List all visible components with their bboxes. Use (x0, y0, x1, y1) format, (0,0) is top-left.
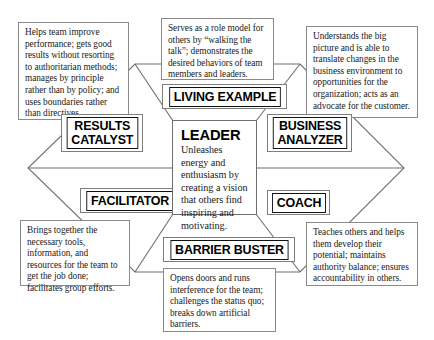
role-label-results-catalyst-text: RESULTSCATALYST (66, 117, 137, 150)
callout-living-example: Serves as a role model for others by “wa… (161, 18, 274, 80)
role-label-facilitator[interactable]: FACILITATOR (80, 188, 179, 213)
callout-coach: Teaches others and helps them develop th… (306, 222, 418, 286)
role-label-barrier-buster-text: BARRIER BUSTER (170, 240, 288, 260)
role-label-business-analyzer-line2: ANALYZER (277, 132, 342, 147)
center-leader-description: Unleashes energy and enthusiasm by creat… (181, 143, 250, 232)
diagram-canvas: Helps team improve performance; gets goo… (0, 0, 434, 340)
role-label-business-analyzer[interactable]: BUSINESSANALYZER (267, 114, 352, 152)
role-label-facilitator-text: FACILITATOR (86, 191, 174, 211)
callout-business-analyzer: Understands the big picture and is able … (306, 26, 418, 118)
callout-barrier-buster: Opens doors and runs interference for th… (163, 268, 276, 332)
role-label-coach-text: COACH (272, 193, 326, 213)
role-label-living-example-text: LIVING EXAMPLE (169, 87, 281, 107)
role-label-barrier-buster[interactable]: BARRIER BUSTER (163, 237, 295, 262)
role-label-results-catalyst-line2: CATALYST (71, 132, 133, 147)
role-label-living-example[interactable]: LIVING EXAMPLE (162, 84, 287, 109)
center-leader-box[interactable]: LEADER Unleashes energy and enthusiasm b… (172, 120, 257, 215)
role-label-business-analyzer-text: BUSINESSANALYZER (272, 117, 346, 150)
callout-results-catalyst: Helps team improve performance; gets goo… (18, 22, 129, 120)
callout-facilitator: Brings together the necessary tools, inf… (20, 220, 130, 286)
role-label-coach[interactable]: COACH (267, 190, 330, 215)
role-label-results-catalyst[interactable]: RESULTSCATALYST (61, 114, 143, 152)
center-leader-title: LEADER (181, 126, 247, 143)
